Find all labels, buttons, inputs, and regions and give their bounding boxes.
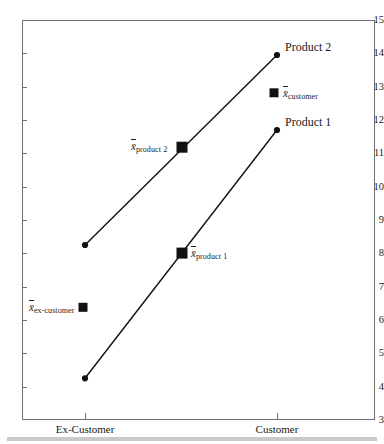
y-tick-label: 9	[366, 215, 384, 225]
overbar	[131, 139, 136, 140]
annotation-x-bar-product-1: x̄product 1	[191, 247, 227, 263]
x-bar-subscript: product 2	[136, 145, 167, 154]
y-tick-mark	[22, 53, 27, 54]
x-tick-label-customer: Customer	[256, 423, 299, 436]
y-tick-mark	[22, 320, 27, 321]
x-bar-subscript: ex-customer	[34, 306, 75, 315]
y-tick-mark	[22, 387, 27, 388]
x-bar-symbol: x̄	[131, 139, 136, 152]
y-tick-label: 12	[366, 115, 384, 125]
y-tick-label: 4	[366, 382, 384, 392]
y-tick-mark	[22, 220, 27, 221]
y-tick-mark	[22, 153, 27, 154]
annotation-x-bar-customer: x̄customer	[283, 87, 318, 103]
bottom-rule	[7, 437, 377, 441]
x-bar-glyph: x̄	[283, 87, 288, 99]
y-tick-mark	[22, 253, 27, 254]
annotation-x-bar-ex-customer: x̄ex-customer	[29, 301, 75, 317]
x-bar-symbol: x̄	[29, 300, 34, 313]
y-tick-label: 3	[366, 415, 384, 425]
y-tick-label: 14	[366, 48, 384, 58]
x-bar-glyph: x̄	[131, 140, 136, 152]
y-tick-label: 10	[366, 182, 384, 192]
series-label-product-2: Product 2	[285, 41, 331, 54]
y-tick-mark	[22, 87, 27, 88]
plot-area	[22, 20, 375, 420]
overbar	[191, 246, 196, 247]
x-bar-symbol: x̄	[283, 86, 288, 99]
x-bar-glyph: x̄	[191, 247, 196, 259]
y-tick-label: 15	[366, 15, 384, 25]
y-tick-mark	[22, 187, 27, 188]
x-tick-mark	[277, 413, 278, 420]
y-tick-mark	[22, 353, 27, 354]
y-tick-label: 11	[366, 148, 384, 158]
y-tick-mark	[22, 287, 27, 288]
y-tick-label: 8	[366, 248, 384, 258]
series-label-product-1: Product 1	[285, 116, 331, 129]
y-tick-label: 13	[366, 82, 384, 92]
annotation-x-bar-product-2: x̄product 2	[131, 140, 167, 156]
y-tick-mark	[22, 120, 27, 121]
y-tick-label: 5	[366, 348, 384, 358]
overbar	[29, 300, 34, 301]
y-tick-label: 6	[366, 315, 384, 325]
x-bar-subscript: customer	[288, 92, 318, 101]
x-tick-label-ex-customer: Ex-Customer	[56, 423, 115, 436]
y-tick-label: 7	[366, 282, 384, 292]
x-bar-glyph: x̄	[29, 301, 34, 313]
interaction-plot-figure: 15 14 13 12 11 10 9 8 7 6 5 4 3 Ex-Custo…	[0, 0, 384, 444]
x-bar-symbol: x̄	[191, 246, 196, 259]
x-bar-subscript: product 1	[196, 252, 227, 261]
overbar	[283, 86, 288, 87]
x-tick-mark	[85, 413, 86, 420]
